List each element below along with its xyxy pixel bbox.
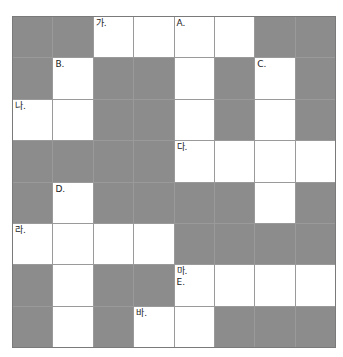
clue-number-label: 마. E.	[177, 266, 188, 288]
crossword-grid: 가.A.B.C.나.다.D.라.마. E.바.	[12, 16, 336, 348]
blocked-cell	[296, 17, 335, 57]
clue-number-label: C.	[257, 59, 266, 70]
blocked-cell	[296, 58, 335, 98]
answer-cell[interactable]: C.	[255, 58, 294, 98]
blocked-cell	[215, 183, 254, 223]
answer-cell[interactable]: A.	[175, 17, 214, 57]
blocked-cell	[215, 307, 254, 347]
blocked-cell	[296, 224, 335, 264]
blocked-cell	[94, 307, 133, 347]
answer-cell[interactable]: 가.	[94, 17, 133, 57]
answer-cell[interactable]	[94, 224, 133, 264]
answer-cell[interactable]: 다.	[175, 141, 214, 181]
blocked-cell	[134, 265, 173, 305]
answer-cell[interactable]	[134, 17, 173, 57]
answer-cell[interactable]	[134, 224, 173, 264]
answer-cell[interactable]: 라.	[13, 224, 52, 264]
answer-cell[interactable]	[255, 183, 294, 223]
blocked-cell	[94, 183, 133, 223]
answer-cell[interactable]: D.	[53, 183, 92, 223]
clue-number-label: 가.	[96, 18, 107, 29]
answer-cell[interactable]	[53, 265, 92, 305]
answer-cell[interactable]	[53, 100, 92, 140]
blocked-cell	[53, 141, 92, 181]
answer-cell[interactable]	[255, 265, 294, 305]
answer-cell[interactable]	[53, 307, 92, 347]
answer-cell[interactable]	[175, 58, 214, 98]
blocked-cell	[94, 100, 133, 140]
blocked-cell	[175, 183, 214, 223]
blocked-cell	[255, 307, 294, 347]
blocked-cell	[255, 17, 294, 57]
answer-cell[interactable]	[215, 265, 254, 305]
answer-cell[interactable]: 바.	[134, 307, 173, 347]
blocked-cell	[175, 224, 214, 264]
blocked-cell	[134, 58, 173, 98]
blocked-cell	[215, 224, 254, 264]
clue-number-label: 라.	[15, 225, 26, 236]
clue-number-label: 다.	[177, 142, 188, 153]
clue-number-label: B.	[55, 59, 64, 70]
clue-number-label: A.	[177, 18, 186, 29]
blocked-cell	[53, 17, 92, 57]
blocked-cell	[215, 58, 254, 98]
blocked-cell	[255, 224, 294, 264]
blocked-cell	[13, 58, 52, 98]
answer-cell[interactable]: B.	[53, 58, 92, 98]
blocked-cell	[134, 141, 173, 181]
answer-cell[interactable]: 마. E.	[175, 265, 214, 305]
clue-number-label: 나.	[15, 101, 26, 112]
blocked-cell	[13, 265, 52, 305]
blocked-cell	[94, 141, 133, 181]
clue-number-label: 바.	[136, 308, 147, 319]
answer-cell[interactable]	[296, 141, 335, 181]
blocked-cell	[94, 58, 133, 98]
blocked-cell	[134, 100, 173, 140]
blocked-cell	[296, 183, 335, 223]
answer-cell[interactable]	[175, 100, 214, 140]
answer-cell[interactable]	[53, 224, 92, 264]
blocked-cell	[13, 17, 52, 57]
blocked-cell	[296, 100, 335, 140]
answer-cell[interactable]	[255, 141, 294, 181]
answer-cell[interactable]: 나.	[13, 100, 52, 140]
clue-number-label: D.	[55, 184, 65, 195]
answer-cell[interactable]	[215, 17, 254, 57]
blocked-cell	[215, 100, 254, 140]
blocked-cell	[13, 141, 52, 181]
answer-cell[interactable]	[175, 307, 214, 347]
blocked-cell	[13, 183, 52, 223]
blocked-cell	[296, 307, 335, 347]
blocked-cell	[94, 265, 133, 305]
blocked-cell	[134, 183, 173, 223]
blocked-cell	[13, 307, 52, 347]
answer-cell[interactable]	[255, 100, 294, 140]
answer-cell[interactable]	[296, 265, 335, 305]
answer-cell[interactable]	[215, 141, 254, 181]
